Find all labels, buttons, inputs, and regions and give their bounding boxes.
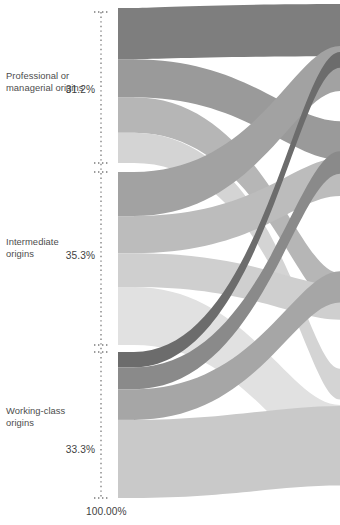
origin-node-segment-working-0: [118, 352, 134, 367]
sankey-figure: Professional or managerial origins 31.2%…: [0, 0, 340, 525]
origin-label-working-line2: origins: [6, 417, 98, 429]
origin-node-segment-professional-2: [118, 97, 134, 133]
axis-total-label: 100.00%: [86, 506, 127, 517]
origin-percent-intermediate: 35.3%: [37, 250, 95, 261]
origin-node-segment-working-3: [118, 420, 134, 498]
origin-node-segment-intermediate-3: [118, 287, 134, 345]
origin-label-working: Working-class origins: [6, 405, 98, 430]
origin-percent-professional: 31.2%: [37, 84, 95, 95]
flow-ribbon-working-3: [134, 406, 340, 498]
origin-node-segment-intermediate-1: [118, 216, 134, 253]
flow-ribbons-group: [134, 4, 340, 498]
origin-percent-working: 33.3%: [37, 444, 95, 455]
origin-label-intermediate-line1: Intermediate: [6, 236, 98, 248]
origin-node-segment-intermediate-2: [118, 253, 134, 287]
origin-label-working-line1: Working-class: [6, 405, 98, 417]
origin-node-segment-working-1: [118, 367, 134, 389]
origin-node-segment-professional-1: [118, 59, 134, 97]
origin-label-professional-line1: Professional or: [6, 70, 98, 82]
origin-node-segment-working-2: [118, 389, 134, 420]
origin-node-segment-professional-0: [118, 8, 134, 59]
origin-node-bars-group: [118, 8, 134, 498]
origin-node-segment-professional-3: [118, 133, 134, 163]
origin-node-segment-intermediate-0: [118, 172, 134, 216]
flow-ribbon-professional-0: [134, 4, 340, 59]
